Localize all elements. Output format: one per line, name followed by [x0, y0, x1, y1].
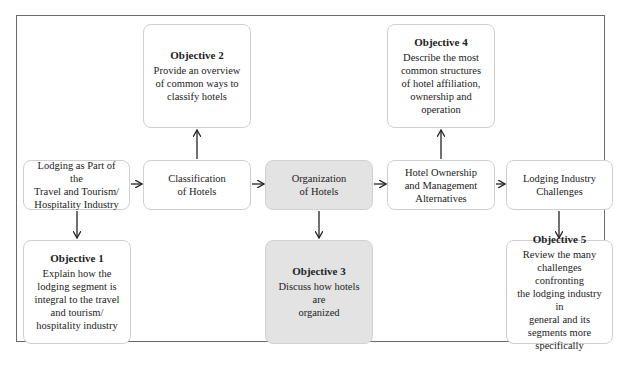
connector-arrows [0, 0, 636, 368]
